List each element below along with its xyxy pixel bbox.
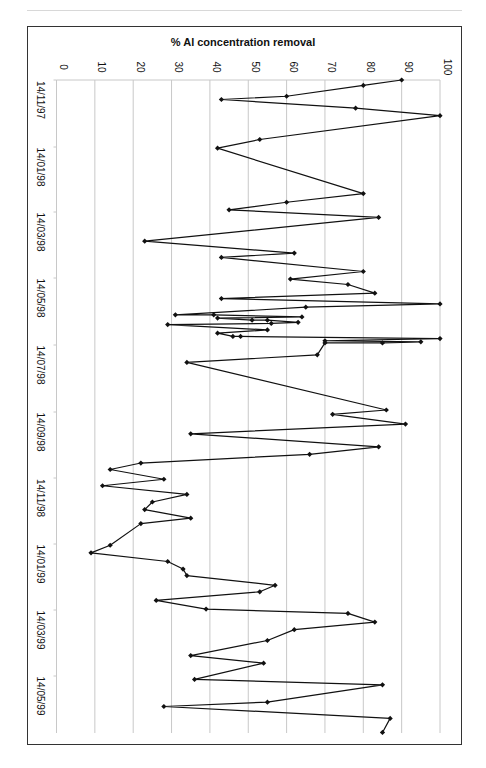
value-tick-label: 70 (326, 61, 337, 73)
date-tick-label: 14/05/99 (35, 677, 46, 716)
date-tick-label: 14/11/97 (35, 81, 46, 120)
data-point-marker (215, 146, 220, 151)
data-point-marker (261, 661, 266, 666)
data-point-marker (403, 421, 408, 426)
data-point-marker (203, 606, 208, 611)
value-tick-label: 20 (135, 61, 146, 73)
data-point-marker (437, 336, 442, 341)
value-tick-label: 40 (211, 61, 222, 73)
date-tick-label: 14/11/98 (35, 479, 46, 518)
data-point-marker (161, 477, 166, 482)
data-point-marker (380, 682, 385, 687)
data-point-marker (219, 255, 224, 260)
data-point-marker (284, 200, 289, 205)
data-point-marker (192, 677, 197, 682)
data-point-marker (184, 492, 189, 497)
data-point-marker (188, 431, 193, 436)
data-point-marker (272, 583, 277, 588)
data-point-marker (215, 331, 220, 336)
data-point-marker (437, 113, 442, 118)
data-point-marker (165, 559, 170, 564)
data-point-marker (307, 452, 312, 457)
data-point-marker (361, 269, 366, 274)
data-point-marker (219, 97, 224, 102)
data-point-marker (292, 251, 297, 256)
data-point-marker (265, 327, 270, 332)
data-point-marker (249, 318, 254, 323)
data-point-marker (180, 566, 185, 571)
data-point-marker (188, 516, 193, 521)
date-tick-label: 14/09/98 (35, 413, 46, 452)
data-point-marker (380, 730, 385, 735)
data-point-marker (138, 460, 143, 465)
date-tick-label: 14/05/98 (35, 279, 46, 318)
data-point-marker (142, 239, 147, 244)
value-tick-label: 80 (365, 61, 376, 73)
data-point-marker (184, 573, 189, 578)
data-point-marker (154, 598, 159, 603)
data-point-marker (173, 312, 178, 317)
date-tick-label: 14/07/98 (35, 346, 46, 385)
data-point-marker (372, 619, 377, 624)
data-point-marker (257, 137, 262, 142)
value-tick-label: 60 (288, 61, 299, 73)
data-point-marker (108, 467, 113, 472)
data-point-marker (388, 716, 393, 721)
data-point-marker (345, 611, 350, 616)
data-point-marker (188, 653, 193, 658)
data-point-marker (100, 483, 105, 488)
data-point-marker (88, 550, 93, 555)
data-point-marker (165, 322, 170, 327)
value-tick-label: 90 (403, 61, 414, 73)
data-point-marker (345, 282, 350, 287)
date-tick-label: 14/01/98 (35, 148, 46, 187)
data-point-marker (399, 77, 404, 82)
data-point-marker (269, 321, 274, 326)
data-point-marker (215, 315, 220, 320)
data-point-marker (361, 191, 366, 196)
data-point-marker (292, 627, 297, 632)
date-axis-tick-labels: 14/11/9714/01/9814/03/9814/05/9814/07/98… (35, 80, 57, 716)
data-point-marker (376, 215, 381, 220)
date-tick-label: 14/03/99 (35, 611, 46, 650)
data-point-marker (296, 320, 301, 325)
chart-title: % Al concentration removal (171, 36, 315, 48)
data-point-marker (230, 334, 235, 339)
data-point-marker (437, 301, 442, 306)
data-point-marker (265, 700, 270, 705)
value-tick-label: 50 (250, 61, 261, 73)
value-tick-label: 10 (96, 61, 107, 73)
value-tick-label: 0 (58, 64, 69, 70)
series-line (91, 80, 440, 732)
data-point-marker (161, 704, 166, 709)
data-point-marker (372, 291, 377, 296)
data-point-marker (353, 106, 358, 111)
data-point-marker (257, 589, 262, 594)
value-tick-label: 100 (442, 59, 453, 76)
data-point-marker (303, 305, 308, 310)
line-chart: % Al concentration removal 0102030405060… (0, 0, 486, 768)
data-point-marker (384, 407, 389, 412)
data-point-marker (288, 276, 293, 281)
data-point-marker (299, 314, 304, 319)
date-tick-label: 14/03/98 (35, 213, 46, 252)
data-point-marker (330, 412, 335, 417)
data-point-marker (219, 296, 224, 301)
data-point-marker (226, 207, 231, 212)
data-series (88, 77, 442, 735)
data-point-marker (238, 334, 243, 339)
value-axis-tick-labels: 0102030405060708090100 (58, 59, 453, 76)
value-tick-label: 30 (173, 61, 184, 73)
data-point-marker (284, 94, 289, 99)
data-point-marker (184, 360, 189, 365)
data-point-marker (376, 444, 381, 449)
data-point-marker (265, 318, 270, 323)
data-point-marker (361, 83, 366, 88)
value-gridlines (57, 80, 441, 733)
date-tick-label: 14/01/99 (35, 545, 46, 584)
data-point-marker (418, 339, 423, 344)
data-point-marker (265, 638, 270, 643)
